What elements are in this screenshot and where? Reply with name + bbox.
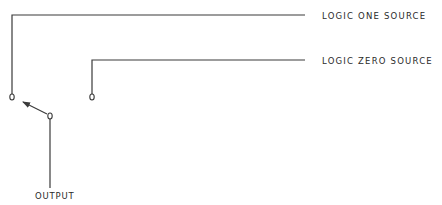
output-pivot-icon <box>48 113 52 119</box>
logic-zero-contact-icon <box>90 94 94 100</box>
logic-one-wire <box>12 15 305 94</box>
logic-zero-source-label: LOGIC ZERO SOURCE <box>322 56 433 66</box>
switch-diagram <box>0 0 442 205</box>
logic-one-contact-icon <box>10 94 14 100</box>
output-label: OUTPUT <box>35 191 74 201</box>
logic-zero-wire <box>92 60 305 94</box>
switch-arrow <box>23 102 47 114</box>
logic-one-source-label: LOGIC ONE SOURCE <box>322 11 426 21</box>
